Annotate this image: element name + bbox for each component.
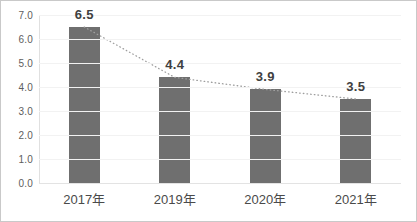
gridline [39,159,401,160]
y-axis-tick-label: 7.0 [18,10,33,21]
y-axis: 0.01.02.03.04.05.06.07.0 [1,15,33,183]
bar[interactable] [159,77,190,183]
x-axis-tick-label: 2017年 [63,189,105,208]
gridline [39,183,401,184]
data-label: 3.5 [346,79,365,94]
y-axis-tick-label: 5.0 [18,58,33,69]
plot-area [39,15,401,183]
x-axis: 2017年2019年2020年2021年 [39,189,401,215]
y-axis-tick-label: 6.0 [18,34,33,45]
x-axis-tick-label: 2020年 [244,189,286,208]
data-label: 6.5 [75,7,94,22]
y-axis-tick-label: 1.0 [18,154,33,165]
x-axis-tick-label: 2021年 [335,189,377,208]
data-label: 3.9 [256,69,275,84]
y-axis-tick-label: 2.0 [18,130,33,141]
bar[interactable] [250,89,281,183]
data-label: 4.4 [165,57,184,72]
y-axis-tick-label: 0.0 [18,178,33,189]
y-axis-tick-label: 4.0 [18,82,33,93]
gridline [39,39,401,40]
gridline [39,63,401,64]
gridline [39,135,401,136]
chart-container: 0.01.02.03.04.05.06.07.0 2017年2019年2020年… [0,0,417,222]
x-axis-tick-label: 2019年 [154,189,196,208]
y-axis-tick-label: 3.0 [18,106,33,117]
gridline [39,111,401,112]
